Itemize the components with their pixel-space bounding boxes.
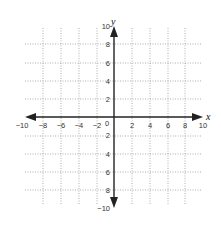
x-tick-label: 8: [183, 121, 187, 130]
x-tick-label: −8: [39, 121, 48, 130]
origin-label: 0: [105, 119, 109, 128]
x-tick-label: −6: [57, 121, 66, 130]
y-tick-label: 6: [106, 168, 110, 177]
y-tick-label: 2: [106, 131, 110, 140]
x-tick-label: 2: [130, 121, 134, 130]
x-tick-labels: −10−8−6−4−2246810: [16, 121, 208, 130]
coordinate-plane: x y 0 −10−8−6−4−2246810 1086422468−10: [0, 0, 221, 227]
y-tick-label: 10: [102, 22, 110, 31]
x-axis-right-arrow-icon: [192, 113, 203, 121]
y-tick-label: 8: [106, 40, 110, 49]
y-axis-down-arrow-icon: [110, 197, 118, 208]
x-tick-label: 4: [148, 121, 152, 130]
x-axis-left-arrow-icon: [25, 113, 36, 121]
y-axis-label: y: [110, 16, 116, 27]
y-tick-label: 4: [106, 77, 110, 86]
x-tick-label: −2: [93, 121, 102, 130]
x-tick-label: −4: [75, 121, 84, 130]
y-tick-label: 4: [106, 150, 110, 159]
x-tick-label: 6: [166, 121, 170, 130]
y-axis-up-arrow-icon: [110, 26, 118, 37]
y-tick-label: 6: [106, 59, 110, 68]
x-tick-label: 10: [199, 121, 207, 130]
y-tick-label: −10: [97, 204, 110, 213]
y-tick-label: 2: [106, 95, 110, 104]
y-tick-label: 8: [106, 186, 110, 195]
x-tick-label: −10: [16, 121, 29, 130]
